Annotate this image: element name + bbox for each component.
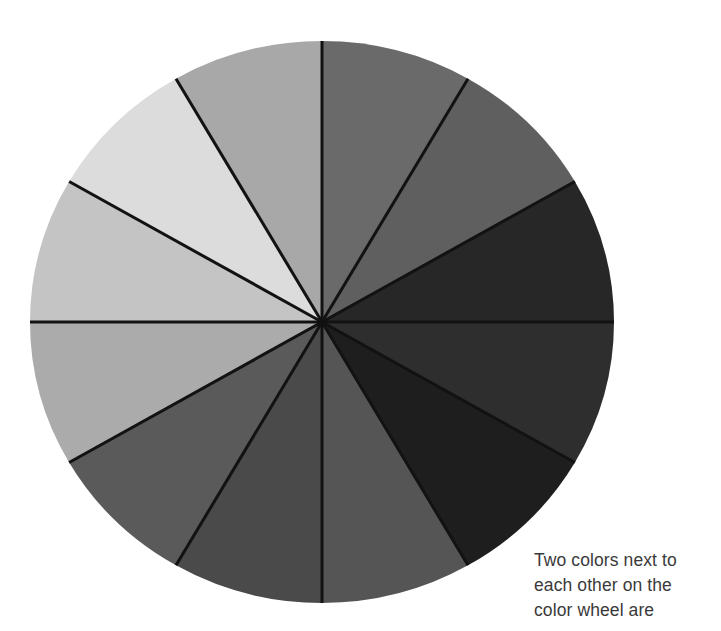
caption-text: Two colors next to each other on the col… — [534, 548, 721, 623]
color-wheel-figure — [0, 0, 660, 631]
page-root: Two colors next to each other on the col… — [0, 0, 721, 631]
caption-line-2: each other on the — [534, 573, 721, 598]
color-wheel-svg — [0, 0, 660, 631]
caption-line-3: color wheel are — [534, 598, 721, 623]
caption-line-1: Two colors next to — [534, 548, 721, 573]
